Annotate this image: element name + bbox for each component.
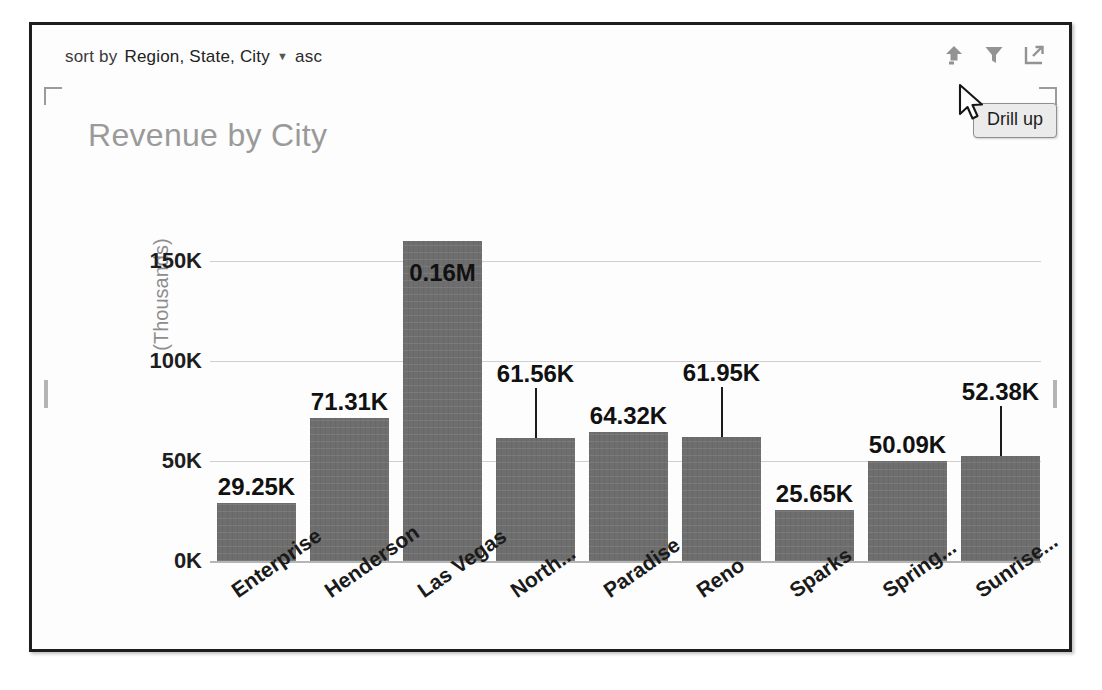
bar-data-label: 71.31K <box>311 388 388 416</box>
data-label-leader-line <box>721 387 723 437</box>
mouse-cursor <box>957 83 987 129</box>
bar[interactable] <box>682 437 761 561</box>
y-axis-tick-label: 50K <box>82 448 202 474</box>
bar-data-label: 50.09K <box>869 431 946 459</box>
bar-data-label: 0.16M <box>409 259 476 287</box>
y-axis-tick-labels: 0K50K100K150K <box>62 25 202 649</box>
bar-data-label: 64.32K <box>590 402 667 430</box>
bar-data-label: 29.25K <box>218 473 295 501</box>
bar[interactable] <box>403 241 482 561</box>
bar-data-label: 61.95K <box>683 359 760 387</box>
bar-data-label: 25.65K <box>776 480 853 508</box>
bar-data-label: 61.56K <box>497 360 574 388</box>
revenue-by-city-visual[interactable]: sort byRegion, State, City▼asc Revenue <box>29 22 1072 652</box>
gridline <box>210 361 1041 362</box>
chart-plot-area[interactable]: (Thousands) 0K50K100K150K 29.25K71.31K0.… <box>32 25 1069 649</box>
y-axis-tick-label: 150K <box>82 248 202 274</box>
data-label-leader-line <box>1000 406 1002 456</box>
y-axis-tick-label: 100K <box>82 348 202 374</box>
gridline <box>210 261 1041 262</box>
bar-data-label: 52.38K <box>962 378 1039 406</box>
data-label-leader-line <box>535 388 537 438</box>
y-axis-tick-label: 0K <box>82 548 202 574</box>
